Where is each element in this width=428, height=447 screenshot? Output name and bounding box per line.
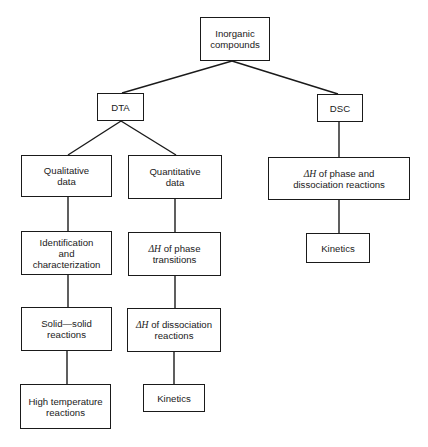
- node-label: Inorganic compounds: [210, 28, 260, 50]
- node-dh-dissociation-reactions: ΔH of dissociation reactions: [127, 308, 221, 352]
- node-label: Quantitative data: [149, 166, 200, 188]
- node-dta: DTA: [97, 93, 144, 121]
- edge-dta-quantitative: [121, 121, 176, 155]
- connector-lines: [0, 0, 428, 447]
- node-solid-solid-reactions: Solid—solid reactions: [21, 307, 112, 351]
- node-label: DSC: [330, 103, 350, 114]
- node-qualitative-data: Qualitative data: [21, 155, 112, 197]
- node-dh-phase-transitions: ΔH of phase transitions: [128, 232, 221, 276]
- node-dsc-kinetics: Kinetics: [306, 233, 370, 263]
- node-label: DTA: [111, 102, 129, 113]
- node-label-wrap: ΔH of phase transitions: [148, 243, 200, 265]
- node-high-temperature-reactions: High temperature reactions: [20, 384, 111, 429]
- node-label: of dissociation reactions: [149, 319, 212, 341]
- node-label-wrap: ΔH of phase and dissociation reactions: [293, 168, 385, 190]
- edge-inorganic-dta: [122, 61, 232, 93]
- node-label: Kinetics: [321, 243, 355, 254]
- node-label: Qualitative data: [44, 165, 89, 187]
- delta-h-symbol: ΔH: [136, 319, 149, 330]
- node-inorganic-compounds: Inorganic compounds: [200, 17, 270, 61]
- edge-inorganic-dsc: [232, 61, 338, 94]
- delta-h-symbol: ΔH: [148, 243, 161, 254]
- node-identification-characterization: Identification and characterization: [21, 231, 112, 275]
- node-dsc: DSC: [317, 94, 363, 122]
- node-label: Identification and characterization: [33, 237, 101, 270]
- edge-dta-qualitative: [68, 121, 121, 155]
- node-label: Solid—solid reactions: [41, 318, 92, 340]
- node-label-wrap: ΔH of dissociation reactions: [136, 319, 212, 341]
- node-label: Kinetics: [157, 393, 191, 404]
- delta-h-symbol: ΔH: [304, 168, 317, 179]
- node-dta-kinetics: Kinetics: [143, 384, 205, 412]
- node-label: High temperature reactions: [28, 396, 102, 418]
- node-quantitative-data: Quantitative data: [128, 155, 222, 199]
- node-dsc-dh-phase-dissociation: ΔH of phase and dissociation reactions: [268, 157, 410, 200]
